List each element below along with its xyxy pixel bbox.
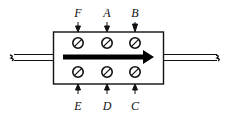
port-B-icon [130, 38, 140, 48]
outlet-pipe [163, 55, 219, 62]
arrow-up-icon [76, 84, 81, 90]
top-arrows [76, 22, 138, 32]
port-E-icon [73, 67, 83, 77]
port-C-icon [130, 67, 140, 77]
inlet-pipe [10, 55, 53, 62]
label-D: D [102, 99, 112, 113]
label-B: B [131, 6, 139, 20]
arrow-down-icon [133, 24, 138, 32]
port-D-icon [102, 67, 112, 77]
port-A-icon [102, 38, 112, 48]
label-E: E [73, 99, 82, 113]
arrow-down-icon [105, 26, 110, 32]
pipe-break-left-icon [10, 55, 13, 61]
label-C: C [131, 99, 140, 113]
arrow-down-icon [76, 26, 81, 32]
bottom-arrows [76, 84, 138, 94]
arrow-up-icon [133, 84, 138, 90]
port-F-icon [73, 38, 83, 48]
pipe-diagram: F A B E D C [0, 0, 234, 123]
label-A: A [102, 6, 111, 20]
label-F: F [73, 6, 82, 20]
arrow-up-icon [105, 84, 110, 90]
